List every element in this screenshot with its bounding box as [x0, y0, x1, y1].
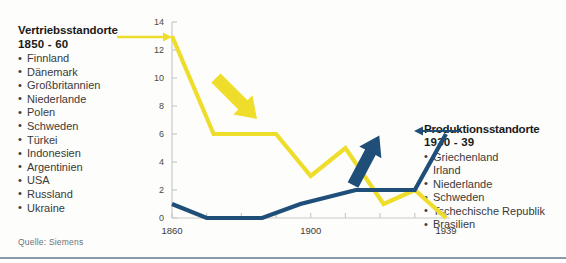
series-lines [172, 36, 446, 218]
svg-text:8: 8 [159, 101, 164, 111]
svg-text:12: 12 [154, 45, 164, 55]
svg-text:6: 6 [159, 129, 164, 139]
decline-arrow-icon [211, 73, 257, 119]
svg-text:0: 0 [159, 213, 164, 223]
infographic-root: Vertriebsstandorte 1850 - 60 Finnland Dä… [0, 0, 566, 263]
y-axis: 02468101214 [154, 17, 177, 223]
left-callout-arrow-icon [117, 32, 172, 41]
svg-text:10: 10 [154, 73, 164, 83]
right-callout-arrow-icon [414, 127, 460, 136]
svg-text:4: 4 [159, 157, 164, 167]
svg-text:1900: 1900 [300, 225, 321, 236]
svg-text:2: 2 [159, 185, 164, 195]
line-chart: 02468101214 186019001939 [0, 0, 566, 263]
svg-text:1939: 1939 [435, 225, 456, 236]
svg-text:1860: 1860 [161, 225, 182, 236]
svg-text:14: 14 [154, 17, 164, 27]
source-note: Quelle: Siemens [18, 237, 83, 247]
bottom-spacer [0, 259, 566, 263]
